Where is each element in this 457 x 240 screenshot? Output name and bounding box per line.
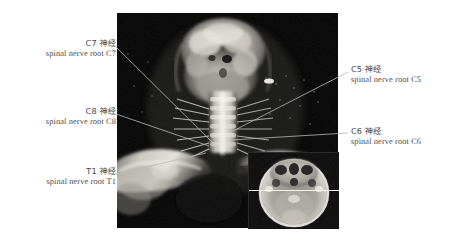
- label-c8-cjk: C8 神经: [46, 106, 116, 117]
- label-spinal-nerve-root-t1: T1 神经 spinal nerve root T1: [46, 166, 116, 187]
- label-t1-latin: spinal nerve root T1: [46, 177, 116, 188]
- label-spinal-nerve-root-c7: C7 神经 spinal nerve root C7: [46, 38, 116, 59]
- label-t1-cjk: T1 神经: [46, 166, 116, 177]
- label-c6-latin: spinal nerve root C6: [351, 137, 421, 148]
- label-c5-cjk: C5 神经: [351, 64, 421, 75]
- axial-mri-inset: [248, 152, 339, 229]
- label-c6-cjk: C6 神经: [351, 126, 421, 137]
- label-c8-latin: spinal nerve root C8: [46, 117, 116, 128]
- label-spinal-nerve-root-c6: C6 神经 spinal nerve root C6: [351, 126, 421, 147]
- label-c7-latin: spinal nerve root C7: [46, 49, 116, 60]
- label-spinal-nerve-root-c8: C8 神经 spinal nerve root C8: [46, 106, 116, 127]
- axial-reference-line: [249, 190, 339, 191]
- figure-anatomical-plate: C7 神经 spinal nerve root C7 C8 神经 spinal …: [0, 0, 457, 240]
- label-c7-cjk: C7 神经: [46, 38, 116, 49]
- label-c5-latin: spinal nerve root C5: [351, 75, 421, 86]
- label-spinal-nerve-root-c5: C5 神经 spinal nerve root C5: [351, 64, 421, 85]
- axial-mri-rendering: [249, 153, 339, 229]
